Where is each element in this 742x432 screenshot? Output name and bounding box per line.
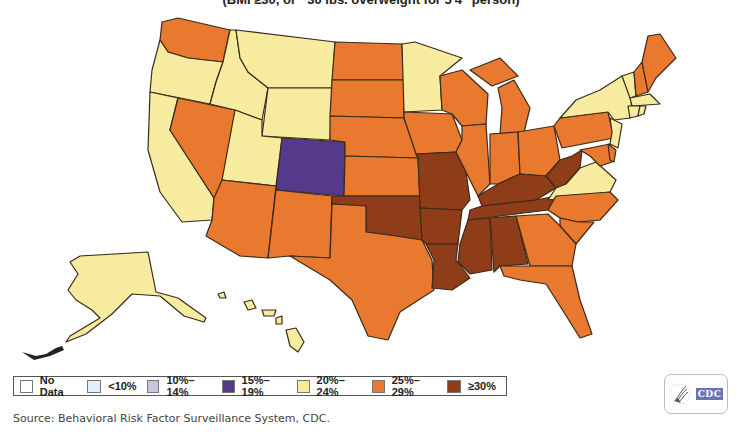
state-NM	[268, 190, 332, 258]
aleutian-islands	[22, 346, 64, 360]
legend-item-lt10: <10%	[87, 380, 136, 393]
state-MS	[458, 218, 492, 274]
state-AR	[420, 208, 462, 244]
state-NJ	[610, 118, 622, 148]
state-NC	[548, 192, 618, 222]
swatch-10-14	[147, 380, 160, 393]
cdc-wordmark: CDC	[696, 388, 724, 400]
legend-label: 20%–24%	[317, 374, 362, 398]
cdc-logo: CDC	[664, 374, 728, 414]
swatch-15-19	[222, 380, 235, 393]
legend-item-15-19: 15%–19%	[222, 374, 287, 398]
legend-item-10-14: 10%–14%	[147, 374, 212, 398]
hhs-eagle-icon	[669, 381, 691, 407]
state-RI	[638, 106, 646, 116]
state-CO	[276, 138, 345, 196]
legend-label: No Data	[40, 374, 77, 398]
state-NY	[560, 76, 632, 120]
state-ME	[642, 34, 676, 92]
state-FL	[500, 266, 592, 338]
legend-label: <10%	[108, 380, 136, 392]
legend-item-no-data: No Data	[20, 374, 77, 398]
source-note: Source: Behavioral Risk Factor Surveilla…	[13, 412, 330, 425]
legend-label: 25%–29%	[392, 374, 437, 398]
legend-label: 15%–19%	[242, 374, 287, 398]
state-SD	[330, 80, 404, 118]
state-AK	[66, 252, 206, 342]
legend-item-25-29: 25%–29%	[372, 374, 437, 398]
state-ND	[332, 42, 404, 80]
legend-item-20-24: 20%–24%	[297, 374, 362, 398]
legend-label: ≥30%	[468, 380, 496, 392]
map-legend: No Data <10% 10%–14% 15%–19% 20%–24% 25%…	[13, 376, 507, 396]
state-HI	[218, 292, 304, 352]
swatch-25-29	[372, 380, 385, 393]
state-KS	[344, 156, 420, 196]
swatch-lt10	[87, 380, 101, 393]
swatch-20-24	[297, 380, 310, 393]
state-AZ	[206, 180, 276, 258]
state-WY	[262, 88, 332, 140]
legend-label: 10%–14%	[166, 374, 211, 398]
swatch-no-data	[20, 380, 33, 393]
legend-item-gte30: ≥30%	[447, 380, 496, 393]
swatch-gte30	[447, 380, 461, 393]
us-obesity-map	[0, 0, 742, 370]
state-MD	[580, 144, 612, 166]
